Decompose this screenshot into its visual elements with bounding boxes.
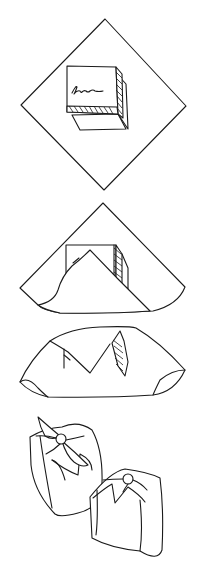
step-2-front-fold [20,203,185,313]
knot-right [123,474,133,484]
step-4-wrapped-bundles [30,417,163,556]
step-3-back-fold [20,327,185,398]
step-1-cloth-with-box [21,19,186,190]
illustration-container [0,0,199,563]
knot-left [56,434,66,444]
